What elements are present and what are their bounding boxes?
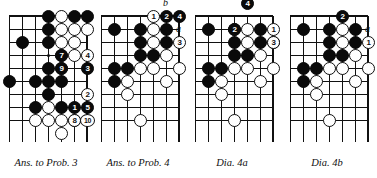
stone-black xyxy=(134,49,147,62)
stone-white xyxy=(42,101,55,114)
stone-black xyxy=(323,49,336,62)
stone-black xyxy=(241,49,254,62)
stone-white xyxy=(310,88,323,101)
stone-black xyxy=(42,88,55,101)
stone-white xyxy=(121,88,134,101)
go-diagram-sheet: 1234578910Ans. to Prob. 31234baAns. to P… xyxy=(0,0,377,178)
stone-white xyxy=(134,62,147,75)
stone-black xyxy=(42,75,55,88)
stone-white xyxy=(254,49,267,62)
move-stone-white-3: 3 xyxy=(267,36,280,49)
grid-line-vertical xyxy=(22,16,23,142)
hoshi-point xyxy=(47,54,50,57)
stone-black xyxy=(42,36,55,49)
stone-black xyxy=(55,75,68,88)
stone-white xyxy=(134,114,147,127)
stone-white xyxy=(55,23,68,36)
go-board[interactable]: 12a xyxy=(281,0,373,152)
stone-white xyxy=(362,62,375,75)
stone-white xyxy=(68,23,81,36)
stone-black xyxy=(323,36,336,49)
stone-black xyxy=(323,23,336,36)
stone-black xyxy=(147,49,160,62)
stone-white xyxy=(68,49,81,62)
stone-black xyxy=(254,36,267,49)
stone-black xyxy=(215,62,228,75)
move-stone-white-3: 3 xyxy=(173,36,186,49)
move-stone-black-2: 2 xyxy=(336,10,349,23)
stone-black xyxy=(55,101,68,114)
stone-white xyxy=(147,23,160,36)
grid-line-vertical xyxy=(290,16,291,142)
grid-line-vertical xyxy=(367,16,369,142)
stone-black xyxy=(349,36,362,49)
stone-black xyxy=(29,75,42,88)
stone-black xyxy=(42,10,55,23)
stone-black xyxy=(134,23,147,36)
stone-white xyxy=(336,23,349,36)
stone-black xyxy=(68,10,81,23)
stone-black xyxy=(42,62,55,75)
stone-black xyxy=(121,62,134,75)
stone-white xyxy=(323,62,336,75)
stone-black xyxy=(108,23,121,36)
stone-black xyxy=(310,62,323,75)
go-board[interactable]: 1234ba xyxy=(92,0,184,152)
stone-white xyxy=(173,62,186,75)
diagram-caption: Dia. 4a xyxy=(186,157,278,168)
go-diagram-ans-to-prob-4: 1234baAns. to Prob. 4 xyxy=(92,0,184,178)
stone-white xyxy=(160,49,173,62)
move-stone-black-1: 1 xyxy=(68,101,81,114)
point-marker-a: a xyxy=(176,24,181,34)
stone-black xyxy=(297,62,310,75)
stone-black xyxy=(29,101,42,114)
grid-line-vertical xyxy=(195,16,196,142)
stone-black xyxy=(134,36,147,49)
stone-white xyxy=(215,75,228,88)
point-marker-b: b xyxy=(163,0,168,8)
stone-white xyxy=(241,62,254,75)
stone-white xyxy=(254,75,267,88)
move-stone-black-2: 2 xyxy=(160,10,173,23)
stone-black xyxy=(297,75,310,88)
stone-black xyxy=(108,75,121,88)
stone-white xyxy=(160,75,173,88)
point-marker-a: a xyxy=(365,24,370,34)
stone-black xyxy=(160,36,173,49)
stone-white xyxy=(228,62,241,75)
stone-white xyxy=(336,36,349,49)
stone-white xyxy=(323,114,336,127)
stone-white xyxy=(267,62,280,75)
move-stone-black-4: 4 xyxy=(241,0,254,10)
stone-white xyxy=(147,36,160,49)
stone-black xyxy=(3,75,16,88)
go-board[interactable]: 1234578910 xyxy=(0,0,92,152)
stone-black xyxy=(202,23,215,36)
move-stone-white-1: 1 xyxy=(267,23,280,36)
stone-white xyxy=(228,114,241,127)
move-stone-black-7: 7 xyxy=(55,49,68,62)
stone-black xyxy=(160,23,173,36)
stone-white xyxy=(147,62,160,75)
stone-white xyxy=(336,62,349,75)
stone-white xyxy=(121,75,134,88)
stone-white xyxy=(241,36,254,49)
grid-line-vertical xyxy=(101,16,102,142)
go-board[interactable]: 1234 xyxy=(186,0,278,152)
stone-black xyxy=(108,62,121,75)
stone-black xyxy=(349,23,362,36)
move-stone-black-4: 4 xyxy=(173,10,186,23)
stone-white xyxy=(68,36,81,49)
stone-white xyxy=(55,10,68,23)
go-diagram-dia-4a: 1234Dia. 4a xyxy=(186,0,278,178)
go-diagram-ans-to-prob-3: 1234578910Ans. to Prob. 3 xyxy=(0,0,92,178)
go-diagram-dia-4b: 12aDia. 4b xyxy=(281,0,373,178)
diagram-caption: Ans. to Prob. 4 xyxy=(92,157,184,168)
stone-white xyxy=(55,36,68,49)
stone-black xyxy=(42,23,55,36)
stone-white xyxy=(349,49,362,62)
stone-black xyxy=(228,36,241,49)
stone-white xyxy=(310,75,323,88)
diagram-caption: Ans. to Prob. 3 xyxy=(0,157,92,168)
stone-black xyxy=(336,49,349,62)
